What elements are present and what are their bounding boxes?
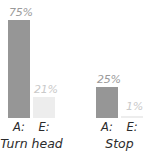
bar-turn-head-e	[33, 97, 55, 118]
bar-value-label-stop-a: 25%	[97, 74, 121, 85]
group-label-row: Turn head Stop	[0, 136, 156, 150]
series-tick-row: A: E: A: E:	[0, 120, 156, 134]
bar-value-label-turn-head-e: 21%	[34, 84, 58, 95]
series-tick-stop-a: A:	[96, 120, 118, 134]
bar-turn-head-a	[8, 20, 30, 118]
bar-value-label-turn-head-a: 75%	[9, 7, 33, 18]
bar-stop-a	[96, 87, 118, 118]
series-tick-turn-head-a: A:	[8, 120, 30, 134]
series-tick-turn-head-e: E:	[33, 120, 55, 134]
bar-value-label-stop-e: 1%	[126, 101, 143, 112]
plot-area: 75% 21% 25% 1%	[0, 0, 156, 118]
bar-stop-e	[121, 116, 143, 118]
series-tick-stop-e: E:	[121, 120, 143, 134]
group-label-stop: Stop	[88, 136, 151, 151]
group-label-turn-head: Turn head	[0, 136, 63, 151]
grouped-bar-chart: 75% 21% 25% 1% A: E: A: E: Turn head Sto…	[0, 0, 156, 159]
